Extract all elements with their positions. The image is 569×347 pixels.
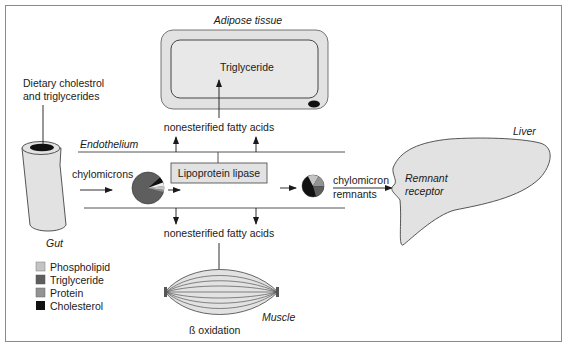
chylomicrons-label: chylomicrons [72, 168, 133, 180]
chylomicron-pie [132, 172, 164, 204]
endothelium-label: Endothelium [80, 138, 139, 150]
remnants-label-line1: chylomicron [333, 174, 389, 186]
lipoprotein-metabolism-diagram: Adipose tissue Triglyceride nonesterifie… [0, 0, 569, 347]
legend-swatch-triglyceride [36, 275, 45, 284]
liver-label: Liver [513, 125, 536, 137]
nefa-bottom-label: nonesterified fatty acids [164, 227, 274, 239]
legend-label-triglyceride: Triglyceride [50, 274, 104, 286]
legend-swatch-protein [36, 288, 45, 297]
remnant-pie [302, 175, 324, 197]
adipocyte-nucleus [308, 101, 320, 108]
legend-label-protein: Protein [50, 287, 83, 299]
remnants-label-line2: remnants [333, 188, 377, 200]
gut-label: Gut [46, 237, 64, 249]
adipose-tissue-label: Adipose tissue [213, 14, 282, 26]
dietary-label-line2: and triglycerides [23, 90, 99, 102]
remnant-receptor-line2: receptor [405, 185, 444, 197]
beta-oxidation-label: ß oxidation [189, 324, 241, 336]
remnant-receptor-line1: Remnant [405, 172, 449, 184]
adipose-triglyceride-label: Triglyceride [220, 61, 274, 73]
legend-swatch-phospholipid [36, 262, 45, 271]
legend-label-phospholipid: Phospholipid [50, 261, 110, 273]
legend-label-cholesterol: Cholesterol [50, 300, 103, 312]
nefa-top-label: nonesterified fatty acids [164, 121, 274, 133]
gut-lumen [30, 144, 54, 152]
lipoprotein-lipase-label: Lipoprotein lipase [178, 167, 260, 179]
muscle-label: Muscle [262, 311, 295, 323]
dietary-label-line1: Dietary cholestrol [23, 77, 104, 89]
legend-swatch-cholesterol [36, 301, 45, 310]
